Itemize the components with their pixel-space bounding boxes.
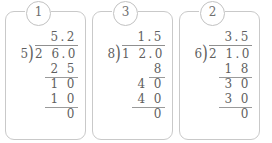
work-step-value: 3 0 [224, 77, 251, 91]
remainder-row: 0 [93, 107, 172, 122]
work-step-row: 3 0 [180, 92, 259, 107]
problem-number-badge: 3 [113, 1, 138, 26]
dividend-value: 2 1.0 [209, 47, 252, 61]
work-step-row: 2 5 [6, 62, 85, 77]
long-division-work: 3.5 6 ) 2 1.0 1 8 3 0 [180, 30, 259, 122]
remainder-value: 0 [67, 107, 77, 121]
dividend-value: 1 2.0 [122, 47, 165, 61]
divisor-dividend-row: 6 ) 2 1.0 [180, 45, 259, 62]
work-step-value: 1 8 [224, 62, 251, 76]
divisor-dividend-row: 8 ) 1 2.0 [93, 45, 172, 62]
remainder-row: 0 [6, 107, 85, 122]
work-step-row: 8 [93, 62, 172, 77]
work-step-value: 2 5 [50, 62, 77, 76]
work-step-value: 4 0 [137, 92, 164, 106]
work-step-value: 1 0 [50, 92, 77, 106]
work-step-row: 4 0 [93, 77, 172, 92]
quotient-value: 1.5 [137, 30, 164, 44]
divisor-value: 5 [20, 47, 28, 61]
remainder-value: 0 [154, 107, 164, 121]
remainder-row: 0 [180, 107, 259, 122]
quotient-row: 3.5 [180, 30, 259, 45]
divisor-dividend-row: 5 ) 2 6.0 [6, 45, 85, 62]
quotient-value: 3.5 [224, 30, 251, 44]
division-bracket-icon: ) [202, 45, 208, 61]
work-step-row: 1 0 [6, 77, 85, 92]
problem-card[interactable]: 1 5.2 5 ) 2 6.0 2 5 1 0 [5, 11, 86, 140]
long-division-work: 5.2 5 ) 2 6.0 2 5 1 0 [6, 30, 85, 122]
quotient-value: 5.2 [50, 30, 77, 44]
quotient-row: 5.2 [6, 30, 85, 45]
work-step-value: 3 0 [224, 92, 251, 106]
work-step-value: 8 [154, 62, 164, 76]
divisor-value: 6 [194, 47, 202, 61]
divisor-value: 8 [107, 47, 115, 61]
problem-number-badge: 1 [26, 1, 51, 26]
long-division-work: 1.5 8 ) 1 2.0 8 4 0 [93, 30, 172, 122]
remainder-value: 0 [241, 107, 251, 121]
work-step-row: 1 8 [180, 62, 259, 77]
work-step-value: 1 0 [50, 77, 77, 91]
work-step-row: 1 0 [6, 92, 85, 107]
division-bracket-icon: ) [28, 45, 34, 61]
division-bracket-icon: ) [115, 45, 121, 61]
problem-card[interactable]: 3 1.5 8 ) 1 2.0 8 4 0 [92, 11, 173, 140]
problem-number-badge: 2 [200, 1, 225, 26]
dividend-value: 2 6.0 [35, 47, 78, 61]
work-step-row: 4 0 [93, 92, 172, 107]
worksheet: 1 5.2 5 ) 2 6.0 2 5 1 0 [0, 0, 272, 143]
problem-card[interactable]: 2 3.5 6 ) 2 1.0 1 8 3 0 [179, 11, 260, 140]
quotient-row: 1.5 [93, 30, 172, 45]
work-step-row: 3 0 [180, 77, 259, 92]
work-step-value: 4 0 [137, 77, 164, 91]
